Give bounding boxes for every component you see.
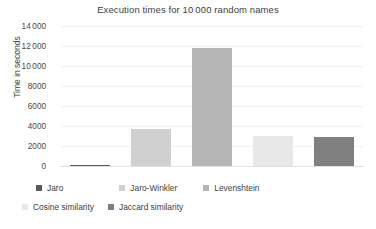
legend-swatch-icon — [108, 204, 114, 210]
chart-legend: JaroJaro-WinklerLevenshteinCosine simila… — [0, 178, 376, 216]
chart-title: Execution times for 10 000 random names — [0, 4, 376, 15]
bar-jaro-winkler[interactable] — [131, 129, 171, 166]
legend-swatch-icon — [22, 204, 28, 210]
y-axis-tick-label: 0 — [0, 162, 46, 171]
bar-jaro[interactable] — [70, 165, 110, 166]
legend-item-jaccard-similarity[interactable]: Jaccard similarity — [108, 202, 183, 212]
y-axis-tick-label: 4000 — [0, 122, 46, 131]
y-axis-tick-label: 14 000 — [0, 22, 46, 31]
legend-label: Jaccard similarity — [119, 202, 183, 212]
legend-item-cosine-similarity[interactable]: Cosine similarity — [22, 202, 94, 212]
bar-jaccard-similarity[interactable] — [314, 137, 354, 166]
y-axis-tick-label: 2000 — [0, 142, 46, 151]
legend-item-jaro[interactable]: Jaro — [36, 183, 63, 193]
legend-label: Cosine similarity — [33, 202, 94, 212]
legend-label: Jaro — [47, 183, 63, 193]
bar-series — [60, 26, 364, 166]
plot-area: 14 00012 00010 00080006000400020000 — [60, 26, 364, 166]
y-axis-tick-label: 10 000 — [0, 62, 46, 71]
legend-swatch-icon — [119, 185, 125, 191]
legend-row: JaroJaro-WinklerLevenshtein — [0, 178, 376, 197]
y-axis-tick-label: 8000 — [0, 82, 46, 91]
gridline — [60, 166, 364, 167]
legend-row: Cosine similarityJaccard similarity — [0, 197, 376, 216]
legend-label: Jaro-Winkler — [130, 183, 177, 193]
bar-chart: Execution times for 10 000 random names … — [0, 0, 376, 229]
bar-cosine-similarity[interactable] — [253, 136, 293, 166]
legend-label: Levenshtein — [214, 183, 259, 193]
legend-item-jaro-winkler[interactable]: Jaro-Winkler — [119, 183, 177, 193]
legend-swatch-icon — [36, 185, 42, 191]
y-axis-tick-label: 6000 — [0, 102, 46, 111]
legend-item-levenshtein[interactable]: Levenshtein — [203, 183, 259, 193]
bar-levenshtein[interactable] — [192, 48, 232, 166]
legend-swatch-icon — [203, 185, 209, 191]
y-axis-tick-label: 12 000 — [0, 42, 46, 51]
